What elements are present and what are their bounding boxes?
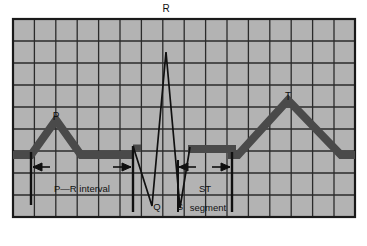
label-p-wave: P — [53, 111, 60, 122]
label-t-wave: T — [285, 91, 291, 102]
label-s-wave: S — [177, 201, 183, 212]
ecg-waveform-svg: R P T Q S P—R interval ST segment — [0, 0, 367, 246]
label-r-wave: R — [162, 3, 169, 14]
label-pr-interval: P—R interval — [54, 183, 110, 194]
ecg-diagram-figure: R P T Q S P—R interval ST segment — [0, 0, 367, 246]
label-st-segment-line2: segment — [190, 202, 227, 213]
label-q-wave: Q — [153, 201, 160, 212]
label-st-segment-line1: ST — [199, 183, 211, 194]
